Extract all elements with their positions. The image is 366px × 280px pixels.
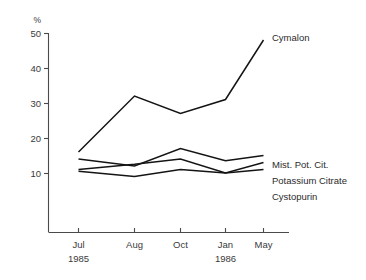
series-line-cymalon [79,40,264,152]
series-line-mist-pot-cit [79,149,264,167]
line-chart-figure: % 50 40 30 20 10 Jul Aug Oct Jan May 198… [0,0,366,280]
x-tick-label-jan: Jan [218,239,233,250]
y-tick-label-20: 20 [30,133,41,144]
x-tick-label-jul: Jul [72,239,84,250]
x-year-label-1985: 1985 [68,253,89,264]
y-tick-label-40: 40 [30,63,41,74]
series-label-potassium-citrate: Potassium Citrate [272,175,347,186]
x-tick-label-aug: Aug [126,239,143,250]
series-lines [79,40,264,177]
series-label-cystopurin: Cystopurin [272,191,317,202]
x-tick-marks [79,228,264,233]
series-label-mist-pot-cit: Mist. Pot. Cit. [272,159,328,170]
chart-canvas: % 50 40 30 20 10 Jul Aug Oct Jan May 198… [0,0,366,280]
x-tick-label-may: May [255,239,273,250]
series-label-cymalon: Cymalon [272,32,310,43]
x-year-label-1986: 1986 [215,253,236,264]
y-axis-unit-label: % [33,15,41,25]
y-tick-label-10: 10 [30,168,41,179]
x-tick-label-oct: Oct [173,239,188,250]
y-tick-label-50: 50 [30,28,41,39]
y-tick-label-30: 30 [30,98,41,109]
y-tick-marks [44,34,49,174]
